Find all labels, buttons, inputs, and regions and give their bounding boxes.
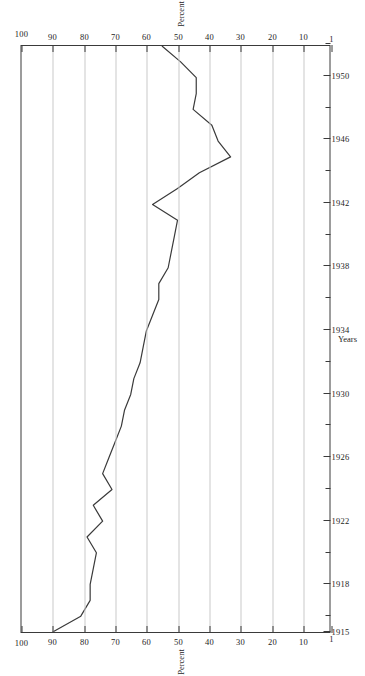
y-axis-tick-label: 60 [142, 636, 151, 646]
y-axis-tick [178, 45, 179, 52]
x-axis-tick [323, 266, 330, 267]
y-axis-title-bottom: Percent [175, 649, 185, 675]
y-axis-tick-label: 80 [79, 32, 88, 42]
y-axis-tick-label: 50 [173, 32, 182, 42]
y-axis-tick-label: 10 [298, 32, 307, 42]
x-axis-minor-tick [325, 43, 330, 44]
x-axis-tick-label: 1930 [331, 389, 349, 399]
y-axis-tick-label: 30 [236, 636, 245, 646]
y-axis-title-top: Percent [175, 1, 185, 27]
x-axis-minor-tick [325, 488, 330, 489]
x-axis-tick [323, 393, 330, 394]
x-axis-minor-tick [325, 107, 330, 108]
y-axis-tick [331, 45, 332, 52]
y-axis-tick-label: 40 [204, 636, 213, 646]
y-axis-tick [146, 45, 147, 52]
x-axis-tick-label: 1918 [331, 579, 349, 589]
y-axis-tick-label: 90 [48, 32, 57, 42]
x-axis-tick-label: 1950 [331, 71, 349, 81]
x-axis-tick-label: 1938 [331, 262, 349, 272]
y-axis-tick-label: 10 [298, 636, 307, 646]
x-axis-minor-tick [325, 615, 330, 616]
y-axis-tick-label: 100 [14, 639, 27, 649]
rotated-figure-wrapper: 1110102020303040405050606070708080909010… [0, 0, 365, 676]
y-axis-tick [146, 626, 147, 633]
x-axis-tick [323, 520, 330, 521]
x-axis-minor-tick [325, 424, 330, 425]
x-axis-tick [323, 138, 330, 139]
y-axis-tick [115, 626, 116, 633]
y-axis-tick [240, 626, 241, 633]
x-axis-title: Years [53, 334, 365, 344]
x-axis-tick [323, 456, 330, 457]
x-axis-tick [323, 75, 330, 76]
y-axis-tick [84, 45, 85, 52]
y-axis-tick-label: 70 [110, 32, 119, 42]
x-axis-minor-tick [325, 552, 330, 553]
x-axis-minor-tick [325, 170, 330, 171]
x-axis-tick-label: 1942 [331, 198, 349, 208]
x-axis-minor-tick [325, 297, 330, 298]
y-axis-tick [52, 626, 53, 633]
y-axis-tick-label: 80 [79, 636, 88, 646]
chart-page: 1110102020303040405050606070708080909010… [0, 0, 365, 676]
y-axis-tick-label: 60 [142, 32, 151, 42]
y-axis-tick [115, 45, 116, 52]
y-axis-tick [303, 626, 304, 633]
figure: 1110102020303040405050606070708080909010… [0, 0, 365, 676]
y-axis-tick [272, 45, 273, 52]
x-axis-tick [323, 202, 330, 203]
y-axis-tick [209, 626, 210, 633]
y-axis-tick-label: 40 [204, 32, 213, 42]
y-axis-tick-label: 20 [267, 636, 276, 646]
x-axis-minor-tick [325, 234, 330, 235]
y-axis-tick-label: 30 [236, 32, 245, 42]
y-axis-tick [21, 626, 22, 633]
y-axis-tick [84, 626, 85, 633]
x-axis-tick-label: 1922 [331, 516, 349, 526]
y-axis-tick [209, 45, 210, 52]
x-axis-minor-tick [325, 361, 330, 362]
x-axis-tick [323, 329, 330, 330]
y-axis-tick [178, 626, 179, 633]
y-axis-tick-label: 20 [267, 32, 276, 42]
x-axis-tick [323, 631, 330, 632]
y-axis-tick [21, 45, 22, 52]
y-axis-tick [272, 626, 273, 633]
y-axis-tick [52, 45, 53, 52]
y-axis-tick-label: 90 [48, 636, 57, 646]
y-axis-tick-label: 70 [110, 636, 119, 646]
y-axis-tick [303, 45, 304, 52]
y-axis-tick-label: 100 [14, 29, 27, 39]
x-axis-tick [323, 583, 330, 584]
x-axis-tick-label: 1915 [331, 627, 349, 637]
y-axis-tick-label: 50 [173, 636, 182, 646]
y-axis-tick [240, 45, 241, 52]
x-axis-tick-label: 1946 [331, 134, 349, 144]
x-axis-tick-label: 1926 [331, 452, 349, 462]
